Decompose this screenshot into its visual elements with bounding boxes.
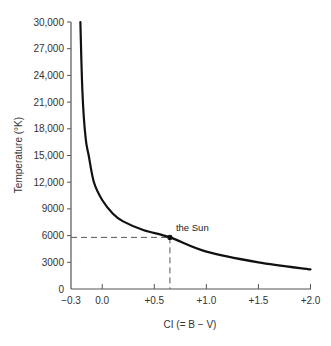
- y-tick-label: 18,000: [33, 123, 64, 134]
- y-axis-title: Temperature (°K): [13, 117, 24, 193]
- axes: [71, 22, 311, 289]
- x-tick-label: 0.0: [95, 295, 109, 306]
- chart: 030006000900012,00015,00018,00021,00024,…: [0, 0, 331, 346]
- x-tick-label: +0.5: [144, 295, 164, 306]
- y-tick-label: 30,000: [33, 17, 64, 28]
- x-tick-label: +1.5: [249, 295, 269, 306]
- x-axis-title: CI (= B − V): [164, 319, 217, 330]
- x-ticks: −0.30.0+0.5+1.0+1.5+2.0: [61, 284, 321, 306]
- y-tick-label: 9000: [42, 203, 65, 214]
- y-tick-label: 6000: [42, 230, 65, 241]
- y-tick-label: 27,000: [33, 43, 64, 54]
- y-tick-label: 3000: [42, 257, 65, 268]
- x-tick-label: +2.0: [301, 295, 321, 306]
- y-tick-label: 0: [58, 284, 64, 295]
- x-tick-label: −0.3: [61, 295, 81, 306]
- y-ticks: 030006000900012,00015,00018,00021,00024,…: [33, 17, 71, 295]
- y-tick-label: 15,000: [33, 150, 64, 161]
- y-tick-label: 12,000: [33, 177, 64, 188]
- sun-guide-lines: [71, 237, 170, 289]
- sun-marker: [167, 235, 172, 240]
- y-tick-label: 21,000: [33, 97, 64, 108]
- x-tick-label: +1.0: [196, 295, 216, 306]
- y-tick-label: 24,000: [33, 70, 64, 81]
- annotations: the Sun: [167, 222, 208, 240]
- sun-label: the Sun: [176, 222, 209, 233]
